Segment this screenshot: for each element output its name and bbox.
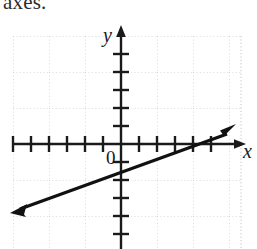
origin-label: 0 [106,147,116,168]
figure-container: axes. [0,0,257,249]
x-axis-label: x [242,140,252,162]
caption-text: axes. [3,0,47,13]
coordinate-plane: y x 0 [0,18,257,249]
y-axis-label: y [101,24,112,47]
